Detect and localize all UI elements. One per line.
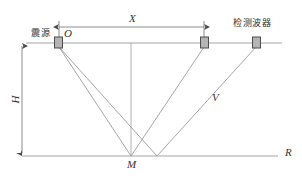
- reflector-line-label: R: [285, 147, 292, 158]
- figure-canvas: 震源 检测波器 O X H V M R: [0, 0, 302, 178]
- source-label: 震源: [31, 29, 50, 38]
- source-marker[interactable]: [55, 37, 63, 48]
- ray-reflected-b-r2: [157, 47, 256, 156]
- depth-dimension-label: H: [10, 95, 21, 105]
- reflection-point-label: M: [127, 159, 136, 170]
- receiver-marker-2[interactable]: [253, 37, 261, 48]
- ray-incident-om: [59, 47, 131, 156]
- velocity-ray-label: V: [212, 92, 219, 103]
- receiver-marker-1[interactable]: [201, 37, 209, 48]
- origin-point-label: O: [64, 28, 72, 39]
- detector-label: 检测波器: [233, 19, 271, 28]
- offset-dimension-label: X: [129, 13, 136, 24]
- ray-incident-ob: [59, 47, 157, 156]
